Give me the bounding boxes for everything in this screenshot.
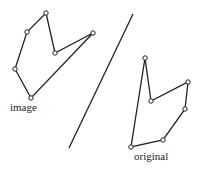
vertex-point [183,107,187,111]
vertex-point [143,56,147,60]
original-label: original [134,150,168,162]
vertex-point [149,99,153,103]
vertex-point [161,138,165,142]
vertex-point [13,67,17,71]
image-label: image [10,101,37,113]
vertex-point [44,11,48,15]
vertex-point [29,96,33,100]
mirror-line [69,14,133,148]
vertex-point [186,80,190,84]
vertex-point [53,51,57,55]
vertex-point [25,30,29,34]
vertex-point [91,31,95,35]
reflection-diagram [0,0,198,175]
vertex-point [129,145,133,149]
original-polygon [131,58,188,147]
